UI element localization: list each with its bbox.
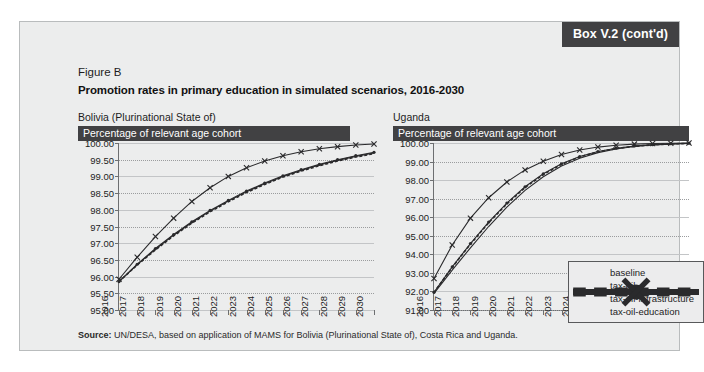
data-point-marker [244,165,249,170]
chart-panel-uganda: Uganda Percentage of relevant age cohort… [393,110,689,331]
data-point-marker [504,179,509,184]
x-axis-tick-label: 2016 [414,296,425,317]
data-point-marker [171,216,176,221]
plot-area-bolivia: 100.0099.5099.0098.5098.0097.5097.0096.5… [118,143,374,311]
figure-title: Promotion rates in primary education in … [78,84,464,96]
y-axis-tick-label: 98.50 [90,188,114,199]
data-point-marker [227,199,230,202]
data-point-marker [336,158,339,161]
data-point-marker [136,263,139,266]
data-point-marker [172,233,175,236]
series-line-tax-oil [119,153,374,282]
data-point-marker [226,174,231,179]
data-point-marker [372,151,375,154]
y-axis-tick-label: 96.50 [90,254,114,265]
chart-unit-label-uganda: Percentage of relevant age cohort [393,126,689,141]
y-axis-tick-label: 93.00 [405,267,429,278]
y-axis-tick-label: 97.00 [90,238,114,249]
data-point-marker [451,265,454,268]
data-point-marker [154,247,157,250]
series-line-tax-oil-infrastructure [119,152,374,281]
data-point-marker [318,163,321,166]
chart-unit-label-bolivia: Percentage of relevant age cohort [78,126,350,141]
chart-panel-bolivia: Bolivia (Plurinational State of) Percent… [78,110,374,331]
data-point-marker [190,220,193,223]
chart-legend: baselinetax-oiltax-oil-infrastructuretax… [568,261,704,323]
y-axis-tick-label: 99.00 [90,171,114,182]
x-axis-tick-label: 2016 [99,296,110,317]
series-line-tax-oil-education [119,144,374,279]
data-point-marker [207,185,212,190]
y-axis-tick-label: 97.00 [405,193,429,204]
data-point-marker [153,234,158,239]
y-axis-tick-label: 96.00 [405,212,429,223]
y-axis-tick-label: 99.50 [90,154,114,165]
source-text: UN/DESA, based on application of MAMS fo… [112,330,518,340]
y-axis-tick-label: 100.00 [85,138,114,149]
series-line-baseline [119,154,374,282]
figure-label: Figure B [78,66,121,78]
data-point-marker [281,174,284,177]
chart-title-bolivia: Bolivia (Plurinational State of) [78,110,374,124]
data-point-marker [560,162,563,165]
box-container: Box V.2 (cont'd) Figure B Promotion rate… [19,21,680,351]
legend-symbol-solid-icon [574,306,606,317]
data-point-marker [542,172,545,175]
data-point-marker [486,195,491,200]
y-axis-tick-label: 99.00 [405,156,429,167]
y-axis-tick-label: 94.00 [405,249,429,260]
x-tick-mark [374,310,375,315]
data-point-marker [300,168,303,171]
data-point-marker [354,154,357,157]
data-point-marker [135,255,140,260]
source-prefix: Source: [78,330,112,340]
series-layer [119,143,374,310]
y-axis-tick-label: 98.00 [405,175,429,186]
data-point-marker [505,202,508,205]
y-axis-tick-label: 97.50 [90,221,114,232]
y-axis-tick-label: 98.00 [90,204,114,215]
legend-item-tax-oil-education[interactable]: tax-oil-education [574,305,698,318]
data-point-marker [469,242,472,245]
data-point-marker [431,276,436,281]
data-point-marker [522,167,527,172]
data-point-marker [487,220,490,223]
data-point-marker [189,199,194,204]
chart-title-uganda: Uganda [393,110,689,124]
plot-area-uganda: baselinetax-oiltax-oil-infrastructuretax… [433,143,689,311]
data-point-marker [245,190,248,193]
y-axis-tick-label: 95.00 [405,230,429,241]
data-point-marker [208,209,211,212]
data-point-marker [523,185,526,188]
y-axis-tick-label: 100.00 [400,138,429,149]
data-point-marker [432,291,435,294]
data-point-marker [450,242,455,247]
data-point-marker [596,150,599,153]
data-point-marker [541,159,546,164]
box-tag: Box V.2 (cont'd) [562,22,679,47]
y-axis-tick-label: 96.00 [90,271,114,282]
data-point-marker [468,216,473,221]
source-note: Source: UN/DESA, based on application of… [78,330,518,340]
data-point-marker [578,155,581,158]
data-point-marker [263,181,266,184]
